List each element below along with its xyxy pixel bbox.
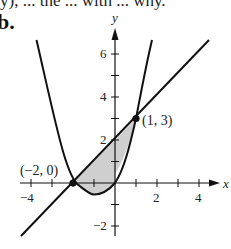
y-tick-label: −2 [93,218,107,233]
y-axis-arrow-icon [112,28,119,40]
y-axis: 6 4 2 −2 y [93,10,119,236]
y-tick-label: 2 [100,132,107,147]
point-label: (1, 3) [142,113,173,129]
graph: −4 2 4 x 6 4 2 −2 y (−2, 0) (1, 3) [0,0,231,249]
intersection-point [132,115,139,122]
x-axis-label: x [222,176,229,191]
y-tick-label: 4 [100,89,107,104]
y-axis-label: y [110,10,118,25]
intersection-point [69,179,76,186]
x-axis: −4 2 4 x [20,176,229,205]
x-tick-label: 2 [153,190,160,205]
x-axis-arrow-icon [209,180,220,187]
point-label: (−2, 0) [20,163,59,179]
y-tick-label: 6 [100,46,107,61]
x-tick-label: −4 [20,190,34,205]
x-tick-label: 4 [195,190,202,205]
